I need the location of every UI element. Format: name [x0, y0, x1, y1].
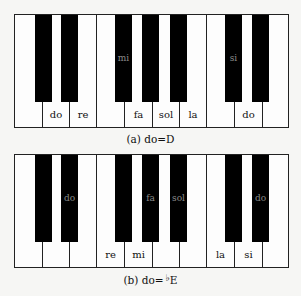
solfege-label: re	[97, 249, 124, 261]
solfege-label: do	[61, 193, 78, 203]
solfege-label: mi	[115, 53, 132, 63]
caption-b: (b) do=♭E	[0, 274, 301, 288]
solfege-label: sol	[170, 193, 187, 203]
black-key: mi	[115, 15, 132, 102]
flat-symbol-icon: ♭	[166, 273, 170, 283]
solfege-label: fa	[142, 193, 159, 203]
solfege-label: do	[252, 193, 269, 203]
solfege-label: do	[43, 109, 69, 121]
black-key	[35, 15, 52, 102]
black-key	[170, 15, 187, 102]
caption-key: D	[166, 133, 174, 145]
black-key	[115, 155, 132, 242]
caption-prefix: (b) do=	[123, 274, 163, 286]
black-key	[225, 155, 242, 242]
solfege-label: la	[180, 109, 206, 121]
piano-keyboard-a: do re fa sol la do mi si	[14, 14, 289, 128]
solfege-label: la	[207, 249, 234, 261]
solfege-label: re	[70, 109, 96, 121]
solfege-label: mi	[125, 249, 152, 261]
piano-keyboard-b: re mi la si do fa sol do	[14, 154, 289, 268]
solfege-label: do	[235, 109, 262, 121]
solfege-label: fa	[125, 109, 152, 121]
black-key	[35, 155, 52, 242]
solfege-label: si	[235, 249, 262, 261]
black-key: fa	[142, 155, 159, 242]
black-key	[61, 15, 78, 102]
solfege-label: sol	[153, 109, 179, 121]
black-key	[252, 15, 269, 102]
caption-prefix: (a) do=	[126, 133, 166, 145]
black-key: do	[252, 155, 269, 242]
black-key: sol	[170, 155, 187, 242]
caption-a: (a) do=D	[0, 133, 301, 146]
black-key: si	[225, 15, 242, 102]
black-key	[142, 15, 159, 102]
solfege-label: si	[225, 53, 242, 63]
caption-key: E	[170, 274, 178, 286]
black-key: do	[61, 155, 78, 242]
